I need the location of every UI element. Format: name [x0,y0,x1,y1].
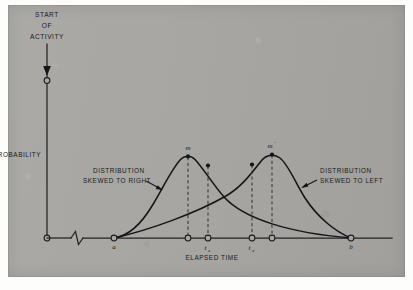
peak-label-m-prime-mark: ′ [274,141,276,146]
annotation-right-line1: DISTRIBUTION [320,167,372,174]
tick-label-te-group: t e [204,244,210,253]
point-te-prime [250,162,254,166]
peak-label-m-prime: m [267,142,272,150]
tick-label-te-sub: e [208,248,210,253]
axis-break-zigzag-icon [71,232,83,245]
start-of-activity-line2: OF [42,22,52,29]
annotation-left-line1: DISTRIBUTION [93,167,145,174]
y-axis-label: PROBABILITY [0,151,41,158]
point-te [206,163,210,167]
pert-distribution-chart: START OF ACTIVITY PROBABILITY ELAPSED TI… [0,0,413,290]
tick-label-te-prime-group: t e ′ [248,240,254,252]
node-a [111,235,117,241]
curve-skewed-to-right [114,156,351,238]
figure-root: START OF ACTIVITY PROBABILITY ELAPSED TI… [0,0,413,290]
peak-label-m-prime-group: m ′ [267,141,276,150]
annotation-right-arrow-icon [301,183,308,188]
start-of-activity-line1: START [35,11,59,18]
peak-label-m: m [185,144,190,152]
point-mode-right [270,153,274,157]
start-arrow-down-icon [43,66,51,76]
tick-label-te-base: t [204,244,207,252]
annotation-left-line2: SKEWED TO RIGHT [83,177,151,184]
x-axis-label: ELAPSED TIME [185,254,238,261]
start-of-activity-line3: ACTIVITY [30,33,64,40]
start-of-activity-node [44,78,50,84]
point-mode-left [186,154,190,158]
node-mode-left [185,235,191,241]
tick-label-te-prime-sub: e [252,248,254,253]
tick-label-b: b [349,243,353,251]
annotation-right-line2: SKEWED TO LEFT [320,177,383,184]
tick-label-a: a [112,243,116,251]
node-mode-right [269,235,275,241]
node-b [348,235,354,241]
curve-skewed-to-left [114,155,351,238]
node-te [205,235,211,241]
